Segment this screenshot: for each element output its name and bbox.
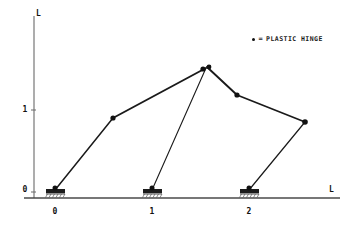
member-left-column [55, 118, 113, 190]
legend: = PLASTIC HINGE [252, 36, 323, 43]
mechanism-members [55, 67, 305, 190]
plastic-hinge-icon [234, 92, 239, 97]
plastic-hinge-icon [200, 66, 205, 71]
x-axis-label: L [329, 186, 334, 194]
y-tick-label-1: 1 [20, 106, 30, 114]
legend-separator: = [258, 36, 263, 43]
plastic-hinge-icon [302, 119, 308, 125]
plastic-hinge-icon [252, 38, 255, 41]
member-left-beam [113, 68, 206, 118]
y-tick-label-0: 0 [20, 186, 30, 194]
member-centre-column [152, 68, 206, 190]
member-right-beam [237, 95, 305, 122]
plastic-hinge-icon [150, 186, 155, 191]
plastic-hinge-icon [110, 115, 115, 120]
plastic-hinge-icon [247, 186, 252, 191]
legend-label: PLASTIC HINGE [266, 36, 323, 43]
member-right-upper [207, 67, 237, 95]
y-axis-label: L [36, 10, 41, 18]
plastic-hinge-icon [207, 65, 212, 70]
member-right-column [249, 122, 305, 190]
x-tick-label-1: 1 [147, 208, 157, 216]
x-tick-label-0: 0 [50, 208, 60, 216]
plastic-hinge-icon [53, 186, 58, 191]
x-tick-label-2: 2 [244, 208, 254, 216]
